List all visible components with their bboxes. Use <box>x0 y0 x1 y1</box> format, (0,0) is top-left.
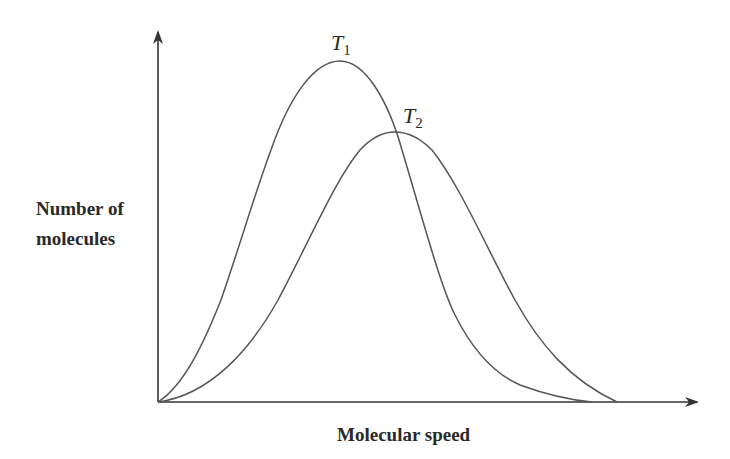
chart: T1 T2 Number of molecules Molecular spee… <box>0 0 730 459</box>
y-axis-label-line-1: Number of <box>36 198 124 219</box>
curve-t2 <box>158 132 617 402</box>
x-axis-label: Molecular speed <box>337 424 471 445</box>
curve-label-t1: T1 <box>331 30 351 58</box>
y-axis-label-line-2: molecules <box>36 228 115 249</box>
curve-t1 <box>158 61 592 402</box>
curve-label-t2: T2 <box>403 103 423 131</box>
